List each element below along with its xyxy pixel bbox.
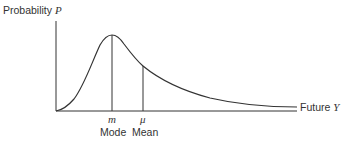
mean-label: Mean — [132, 126, 158, 138]
distribution-chart: Probability P Future Y m μ Mode Mean — [0, 0, 359, 141]
chart-plot — [0, 0, 359, 141]
y-axis-text: Probability — [3, 4, 55, 16]
density-curve — [56, 35, 297, 111]
x-axis-text: Future — [300, 101, 333, 113]
mean-symbol: μ — [140, 113, 146, 125]
y-axis-label: Probability P — [3, 4, 62, 16]
mode-symbol: m — [108, 113, 116, 125]
x-axis-symbol: Y — [333, 101, 339, 113]
y-axis-symbol: P — [55, 4, 62, 16]
x-axis-label: Future Y — [300, 101, 339, 113]
mode-label: Mode — [100, 126, 126, 138]
